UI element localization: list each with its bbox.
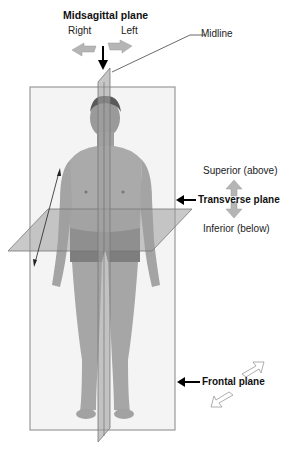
transverse-pointer-arrow [176, 195, 196, 205]
diagonal-arrow-icon [242, 362, 264, 377]
anatomical-planes-diagram: Midsagittal plane Right Left Midline Sup… [0, 0, 302, 449]
left-label: Left [121, 26, 138, 36]
down-arrow-icon [98, 46, 108, 70]
diagonal-arrow-icon [211, 392, 233, 407]
midline-label: Midline [201, 29, 233, 39]
frontal-plane-label: Frontal plane [202, 377, 265, 387]
right-arrow-icon [108, 40, 132, 53]
frontal-pointer-arrow [177, 377, 200, 387]
midsagittal-plane-label: Midsagittal plane [63, 10, 148, 21]
transverse-plane-label: Transverse plane [198, 195, 280, 205]
superior-label: Superior (above) [203, 166, 277, 176]
midsagittal-plane [98, 68, 110, 442]
right-label: Right [68, 26, 91, 36]
inferior-label: Inferior (below) [203, 224, 270, 234]
midline-leader-line [112, 35, 205, 72]
left-arrow-icon [72, 43, 96, 56]
